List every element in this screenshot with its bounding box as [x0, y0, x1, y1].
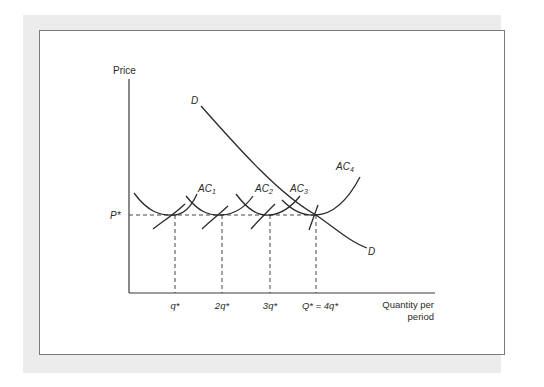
x-axis-label-line2: period: [408, 311, 434, 322]
ac3-left-branch: [202, 206, 228, 229]
cost-demand-diagram: Price P* D D AC1 AC2 AC3 AC4 q* 2q* 3q* …: [0, 0, 544, 387]
y-axis-label: Price: [113, 65, 136, 76]
ac1-curve: [134, 193, 197, 215]
demand-curve: [201, 106, 367, 248]
demand-label-top: D: [191, 95, 198, 106]
price-label: P*: [110, 210, 122, 221]
x-tick-2q: 2q*: [214, 300, 230, 311]
demand-label-bottom: D: [368, 246, 375, 257]
q4-tick-mark: [309, 205, 318, 230]
ac4-left-branch: [251, 204, 275, 229]
ac1-label: AC1: [197, 183, 216, 195]
ac4-label: AC4: [335, 161, 354, 173]
ac2-label: AC2: [254, 183, 273, 195]
x-tick-q: q*: [171, 300, 180, 311]
x-tick-4q: Q* = 4q*: [302, 300, 338, 311]
x-axis-label-line1: Quantity per: [382, 299, 434, 310]
ac3-label: AC3: [289, 183, 308, 195]
ac2-left-branch: [153, 204, 185, 229]
ac2-curve: [186, 196, 253, 215]
x-tick-3q: 3q*: [263, 300, 278, 311]
